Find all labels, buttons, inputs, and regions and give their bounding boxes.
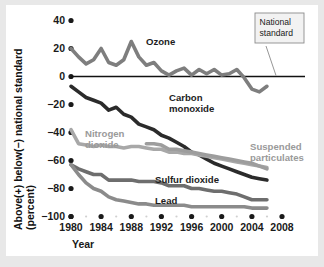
figure-frame: Above(+) below(−) national standard (per… (0, 0, 324, 267)
x-minor-dots (85, 215, 268, 217)
series-label-ozone: Ozone (146, 36, 175, 47)
series-label-suspended-particulates-line1: Suspended (250, 141, 302, 152)
callout-leader-line (266, 46, 276, 76)
y-axis-title-line1: Above(+) below(−) national standard (12, 49, 24, 230)
y-tick-label: −60 (47, 154, 65, 166)
x-tick-dot (189, 214, 194, 219)
x-tick-label: 2008 (270, 221, 294, 233)
x-tick-dot (249, 214, 254, 219)
y-axis-ticks: 40 20 0 −20 −40 −60 −80 −100 (41, 14, 73, 222)
series-label-carbon-monoxide-line1: Carbon (169, 92, 203, 103)
x-tick-dot (279, 214, 284, 219)
series-label-lead: Lead (155, 195, 178, 206)
series-label-carbon-monoxide-line2: monoxide (169, 103, 214, 114)
series-label-nitrogen-dioxide-line1: Nitrogen (85, 128, 125, 139)
x-tick-dot (159, 214, 164, 219)
x-tick-label: 1984 (89, 221, 113, 233)
y-tick-dot (68, 186, 73, 191)
series-label-sulfur-dioxide: Sulfur dioxide (155, 174, 219, 185)
callout-label-line1: National (260, 17, 292, 27)
x-tick-dot (219, 214, 224, 219)
y-tick-label: −40 (47, 126, 65, 138)
y-tick-label: −80 (47, 182, 65, 194)
national-standard-callout: National standard (255, 13, 304, 76)
y-tick-label: 0 (59, 70, 65, 82)
series-label-nitrogen-dioxide-line2: dioxide (85, 139, 119, 150)
x-tick-label: 2000 (210, 221, 234, 233)
y-tick-label: 40 (53, 14, 65, 26)
x-axis-title: Year (72, 238, 94, 250)
x-tick-label: 1988 (120, 221, 144, 233)
x-tick-label: 1992 (150, 221, 174, 233)
y-axis-title: Above(+) below(−) national standard (per… (12, 49, 36, 230)
series-line-ozone (71, 42, 267, 92)
series-label-suspended-particulates-line2: particulates (250, 152, 304, 163)
line-chart: Above(+) below(−) national standard (per… (0, 0, 324, 267)
callout-label-line2: standard (260, 28, 294, 38)
x-tick-dot (68, 214, 73, 219)
y-tick-label: 20 (53, 42, 65, 54)
x-tick-label: 2004 (240, 221, 264, 233)
y-tick-label: −20 (47, 98, 65, 110)
x-tick-dot (99, 214, 104, 219)
x-tick-dot (129, 214, 134, 219)
y-tick-dot (68, 18, 73, 23)
x-tick-label: 1996 (180, 221, 204, 233)
y-axis-title-line2: (percent) (24, 185, 36, 230)
y-tick-dot (68, 158, 73, 163)
y-tick-dot (68, 102, 73, 107)
x-tick-label: 1980 (59, 221, 83, 233)
